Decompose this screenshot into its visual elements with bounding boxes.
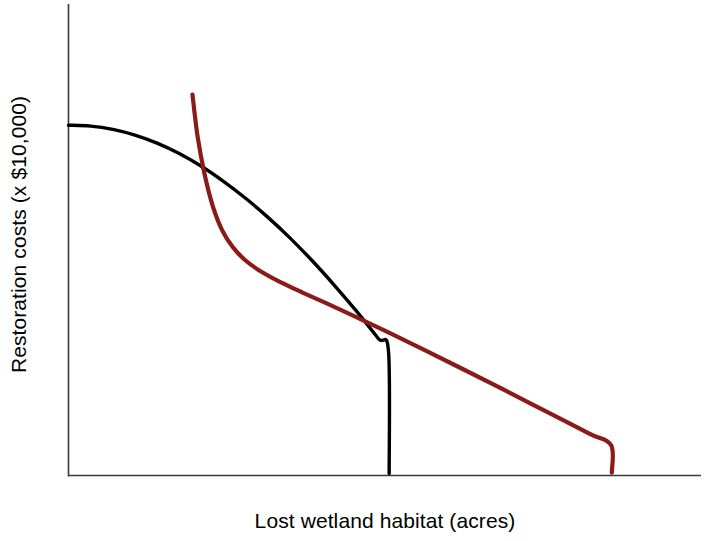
x-axis-label: Lost wetland habitat (acres) [68, 508, 702, 534]
chart-plot-area [0, 0, 706, 541]
chart-figure: Restoration costs (x $10,000) Lost wetla… [0, 0, 706, 541]
y-axis-label: Restoration costs (x $10,000) [2, 0, 36, 505]
chart-background [0, 0, 706, 541]
